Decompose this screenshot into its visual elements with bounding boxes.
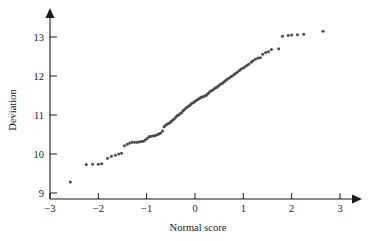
data-point	[100, 162, 103, 165]
data-point	[123, 144, 126, 147]
y-tick-label: 13	[34, 32, 45, 43]
x-tick-label: 3	[337, 203, 342, 214]
data-point	[277, 47, 280, 50]
data-point	[97, 163, 100, 166]
x-tick-label: −1	[141, 203, 152, 214]
x-tick-label: −3	[44, 203, 55, 214]
data-point	[281, 35, 284, 38]
data-point	[267, 50, 270, 53]
x-tick-label: 1	[241, 203, 246, 214]
data-point	[106, 157, 109, 160]
x-tick-label: 0	[192, 203, 197, 214]
y-tick-label: 12	[34, 71, 45, 82]
data-point	[261, 53, 264, 56]
data-point	[117, 153, 120, 156]
x-axis-tick-labels: −3−2−10123	[44, 203, 342, 214]
x-tick-label: 2	[289, 203, 294, 214]
y-tick-label: 9	[39, 188, 44, 199]
x-axis-ticks	[50, 193, 340, 199]
data-point	[161, 129, 164, 132]
data-point	[264, 51, 267, 54]
data-point	[322, 30, 325, 33]
data-point	[91, 163, 94, 166]
qq-plot-figure: −3−2−10123 910111213 Normal score Deviat…	[0, 0, 377, 241]
x-axis-title: Normal score	[170, 222, 227, 233]
data-point-series	[69, 30, 325, 184]
data-point	[259, 56, 262, 59]
data-point	[290, 34, 293, 37]
y-axis-arrow-icon	[46, 8, 55, 18]
y-tick-label: 11	[34, 110, 44, 121]
data-point	[120, 152, 123, 155]
data-point	[69, 181, 72, 184]
y-axis-title: Deviation	[7, 89, 18, 131]
data-point	[110, 155, 113, 158]
data-point	[85, 163, 88, 166]
data-point	[114, 154, 117, 157]
scatter-plot-canvas: −3−2−10123 910111213 Normal score Deviat…	[0, 0, 377, 241]
data-point	[287, 34, 290, 37]
y-tick-label: 10	[34, 149, 45, 160]
data-point	[302, 33, 305, 36]
y-axis-ticks	[50, 37, 57, 193]
data-point	[296, 33, 299, 36]
x-axis-arrow-icon	[352, 195, 362, 204]
y-axis-tick-labels: 910111213	[34, 32, 45, 199]
x-tick-label: −2	[93, 203, 104, 214]
data-point	[270, 48, 273, 51]
data-point	[247, 63, 250, 66]
